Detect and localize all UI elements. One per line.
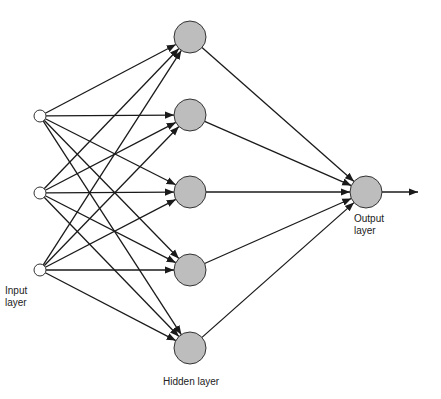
output-node-1: [350, 176, 382, 208]
output-layer-label: Output layer: [354, 213, 384, 237]
input-layer-label: Input layer: [5, 285, 27, 309]
edge-input2-hidden4: [45, 196, 175, 263]
edge-input3-hidden2: [44, 126, 179, 265]
edge-hidden2-output: [205, 121, 352, 185]
hidden-node-3: [174, 176, 206, 208]
hidden-node-5: [174, 332, 206, 364]
hidden-layer-label-text: Hidden layer: [163, 376, 219, 387]
edge-input3-hidden5: [45, 273, 175, 341]
edge-input3-hidden3: [45, 199, 175, 267]
hidden-node-2: [174, 99, 206, 131]
edge-input2-hidden5: [44, 197, 179, 336]
edge-input1-hidden1: [45, 44, 176, 113]
edge-hidden4-output: [205, 198, 352, 263]
edge-hidden5-output: [202, 203, 354, 338]
edge-input1-hidden3: [45, 119, 175, 185]
edge-input1-hidden4: [44, 120, 179, 258]
output-layer-label-line1: Output: [354, 213, 384, 225]
edge-input2-hidden1: [44, 49, 179, 189]
input-node-2: [34, 187, 46, 199]
neural-network-diagram: [0, 0, 441, 399]
output-layer-label-line2: layer: [354, 225, 384, 237]
input-node-1: [34, 110, 46, 122]
input-node-3: [34, 264, 46, 276]
edge-hidden1-output: [202, 48, 354, 182]
hidden-node-4: [174, 254, 206, 286]
hidden-node-1: [174, 21, 206, 53]
input-layer-label-line1: Input: [5, 285, 27, 297]
input-layer-label-line2: layer: [5, 297, 27, 309]
edge-input2-hidden2: [45, 122, 175, 190]
hidden-layer-label: Hidden layer: [163, 376, 219, 388]
edge-input1-hidden2: [46, 115, 174, 116]
edge-input2-hidden3: [46, 192, 174, 193]
